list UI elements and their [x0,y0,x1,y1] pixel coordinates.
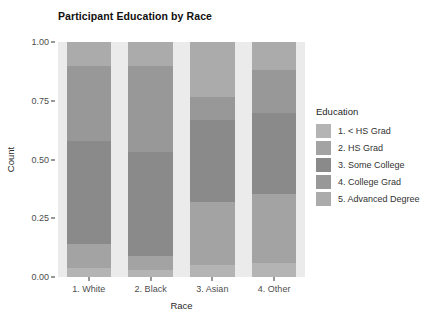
legend-color-swatch [316,141,331,155]
legend-color-swatch [316,158,331,172]
x-axis-title: Race [58,300,305,311]
y-axis-tick-label: 0.00 [31,272,49,282]
legend-item[interactable]: 1. < HS Grad [316,123,446,139]
legend-item-label: 3. Some College [338,160,405,170]
bar-segment[interactable] [128,152,172,255]
bar-segment[interactable] [252,194,296,263]
bar-segment[interactable] [67,66,111,141]
stacked-bar[interactable] [67,42,111,277]
bar-segment[interactable] [252,42,296,70]
y-axis-tick-mark [51,159,55,160]
x-axis-tick-label: 2. Black [135,284,167,294]
bar-segment[interactable] [128,42,172,66]
bar-segment[interactable] [252,70,296,112]
y-axis-tick-label: 1.00 [31,37,49,47]
legend-item-label: 4. College Grad [338,177,401,187]
bar-segment[interactable] [67,268,111,277]
bar-segment[interactable] [252,113,296,194]
x-axis: 1. White2. Black3. Asian4. Other [58,277,305,299]
y-axis-tick-mark [51,100,55,101]
x-axis-tick-mark [274,277,275,281]
legend-item-label: 2. HS Grad [338,143,383,153]
bar-segment[interactable] [190,97,234,119]
bar-segment[interactable] [252,263,296,277]
bar-segment[interactable] [67,141,111,244]
stacked-bar[interactable] [252,42,296,277]
x-axis-tick-mark [150,277,151,281]
legend-item[interactable]: 5. Advanced Degree [316,191,446,207]
y-axis-tick-label: 0.25 [31,213,49,223]
y-axis-tick-mark [51,42,55,43]
bar-segment[interactable] [190,120,234,202]
y-axis-tick-mark [51,277,55,278]
x-axis-tick-label: 3. Asian [196,284,228,294]
legend-item[interactable]: 4. College Grad [316,174,446,190]
bar-segment[interactable] [67,244,111,268]
x-axis-tick-mark [88,277,89,281]
legend-item[interactable]: 2. HS Grad [316,140,446,156]
bar-segment[interactable] [190,265,234,277]
legend-item-label: 5. Advanced Degree [338,194,420,204]
legend: Education 1. < HS Grad2. HS Grad3. Some … [316,106,446,208]
x-axis-tick-label: 4. Other [258,284,291,294]
y-axis-tick-mark [51,218,55,219]
legend-item-label: 1. < HS Grad [338,126,391,136]
legend-title: Education [316,106,446,117]
y-axis-tick-label: 0.50 [31,155,49,165]
stacked-bar[interactable] [190,42,234,277]
bar-slot [58,42,120,277]
legend-color-swatch [316,192,331,206]
legend-color-swatch [316,175,331,189]
bar-slot [120,42,182,277]
bar-segment[interactable] [67,42,111,66]
bar-segment[interactable] [190,42,234,97]
stacked-bar[interactable] [128,42,172,277]
x-axis-tick-label: 1. White [72,284,105,294]
plot-panel [58,42,305,277]
legend-item[interactable]: 3. Some College [316,157,446,173]
y-axis: 0.000.250.500.751.00 [0,42,58,277]
bar-segment[interactable] [190,202,234,265]
legend-items: 1. < HS Grad2. HS Grad3. Some College4. … [316,123,446,207]
x-axis-tick-mark [212,277,213,281]
chart-container: Participant Education by Race Count 0.00… [0,0,448,332]
bar-segment[interactable] [128,66,172,153]
bar-slot [243,42,305,277]
bar-segment[interactable] [128,256,172,270]
bars-layer [58,42,305,277]
legend-color-swatch [316,124,331,138]
bar-slot [182,42,244,277]
bar-segment[interactable] [128,270,172,277]
page-title: Participant Education by Race [58,10,212,22]
y-axis-tick-label: 0.75 [31,96,49,106]
